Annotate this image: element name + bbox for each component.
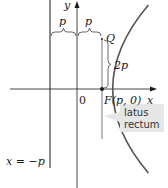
focus-label: F(p, 0): [103, 94, 141, 107]
p-left-label: p: [59, 15, 66, 28]
y-axis-label: y: [63, 0, 71, 12]
two-p-label: 2p: [113, 59, 128, 72]
focus-point: [100, 87, 104, 91]
y-axis-arrow-icon: [75, 1, 80, 8]
latus-label-line2: rectum: [124, 119, 160, 130]
x-axis-arrow-icon: [150, 87, 157, 92]
q-label: Q: [106, 32, 115, 45]
origin-label: 0: [79, 94, 86, 107]
brace-left: [51, 28, 76, 36]
parabola-diagram: y x p p Q 2p 0 F(p, 0) x = −p latus rect…: [0, 0, 168, 188]
brace-right: [78, 28, 101, 36]
point-q: [101, 38, 103, 40]
brace-2p: [104, 40, 111, 88]
directrix-label: x = −p: [6, 155, 45, 168]
latus-label-line1: latus: [124, 107, 148, 118]
callout-pointer: [104, 112, 120, 122]
p-right-label: p: [85, 15, 92, 28]
x-axis-label: x: [147, 94, 154, 107]
